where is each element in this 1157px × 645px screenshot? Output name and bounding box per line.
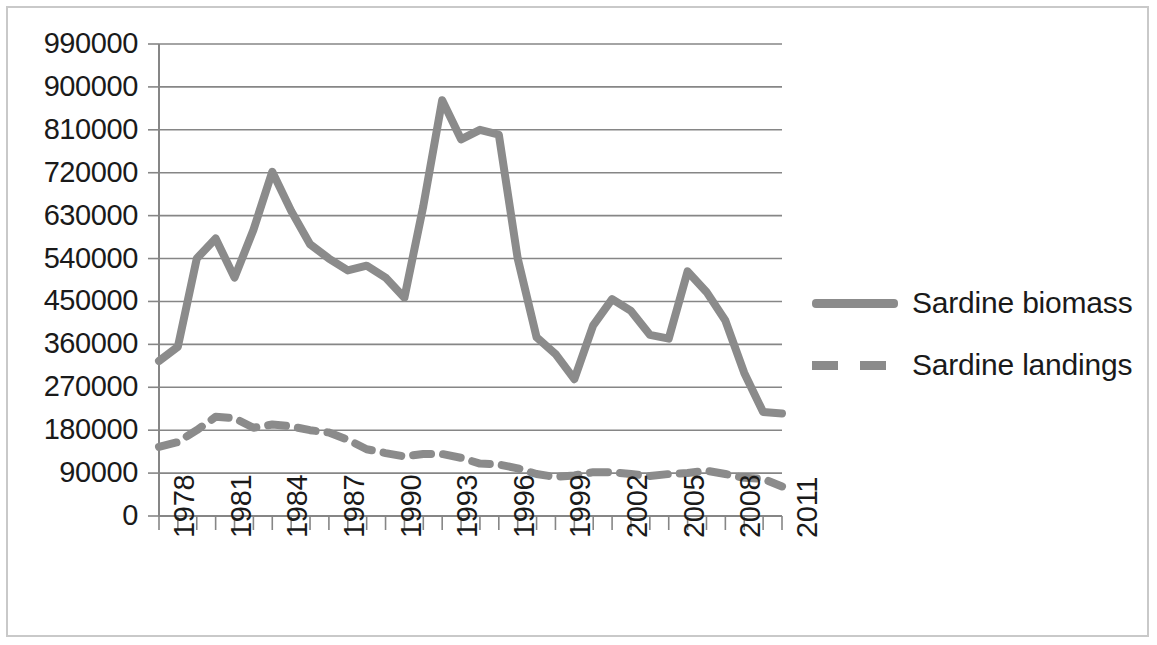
x-tick-label: 2008 xyxy=(736,475,765,538)
x-tick-label: 1996 xyxy=(510,475,539,538)
x-tick-label: 1987 xyxy=(340,475,369,538)
legend-item-sardine-biomass: Sardine biomass xyxy=(812,272,1142,334)
legend-solid-line-icon xyxy=(812,299,898,308)
x-tick-label: 2002 xyxy=(623,475,652,538)
x-tick-label: 2005 xyxy=(680,475,709,538)
x-tick-label: 1999 xyxy=(566,475,595,538)
legend-label-sardine-biomass: Sardine biomass xyxy=(912,288,1132,318)
x-tick-label: 1993 xyxy=(453,475,482,538)
chart-legend: Sardine biomass Sardine landings xyxy=(812,272,1142,396)
chart-screenshot: 9900009000008100007200006300005400004500… xyxy=(0,0,1157,645)
x-tick-label: 2011 xyxy=(793,477,822,538)
x-tick-label: 1990 xyxy=(397,475,426,538)
chart-canvas: 9900009000008100007200006300005400004500… xyxy=(0,0,1157,645)
x-tick-label: 1984 xyxy=(283,475,312,538)
legend-dashed-line-icon xyxy=(812,361,898,370)
x-tick-label: 1978 xyxy=(170,475,199,538)
legend-label-sardine-landings: Sardine landings xyxy=(912,350,1132,380)
x-tick-label: 1981 xyxy=(227,475,256,538)
legend-item-sardine-landings: Sardine landings xyxy=(812,334,1142,396)
